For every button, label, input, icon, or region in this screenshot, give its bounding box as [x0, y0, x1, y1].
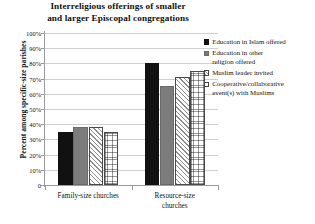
x-label-1-line-0: Resource-size: [124, 192, 227, 202]
bar-group-1-series-2: [175, 77, 190, 185]
y-tick-label-40: 40%: [6, 121, 41, 128]
legend-label-2: Muslim leader invited: [212, 69, 273, 77]
legend-label-3: Cooperative/collaborativeevent(s) with M…: [212, 80, 284, 96]
legend-swatch-icon-1: [204, 51, 209, 56]
legend-label-0: Education in Islam offered: [212, 38, 286, 46]
gridline-80: [45, 63, 218, 64]
legend-item-0[interactable]: Education in Islam offered: [204, 38, 315, 46]
bar-group-1-series-3: [190, 71, 205, 185]
x-tick-mark-origin: [45, 185, 46, 190]
legend-swatch-icon-3: [204, 82, 209, 87]
legend-swatch-icon-0: [204, 39, 209, 44]
bar-group-0-series-0: [58, 132, 73, 185]
chart-figure: Interreligious offerings of smallerand l…: [0, 0, 315, 224]
y-tick-label-20: 20%: [6, 151, 41, 158]
y-tick-label-90: 90%: [6, 45, 41, 52]
legend-item-2[interactable]: Muslim leader invited: [204, 69, 315, 77]
bar-group-1-series-1: [160, 86, 175, 185]
y-tick-label-50: 50%: [6, 106, 41, 113]
y-tick-label-100: 100%: [6, 30, 41, 37]
y-tick-label-10: 10%: [6, 166, 41, 173]
legend-label-0-line-0: Education in Islam offered: [212, 38, 286, 46]
gridline-90: [45, 48, 218, 49]
y-tick-label-80: 80%: [6, 60, 41, 67]
chart-legend: Education in Islam offeredEducation in o…: [204, 38, 315, 100]
plot-area: [45, 33, 218, 185]
legend-label-3-line-0: Cooperative/collaborative: [212, 80, 284, 88]
x-tick-mark-1: [218, 185, 219, 190]
x-axis-label-1: Resource-sizechurches: [124, 192, 227, 211]
legend-label-1: Education in otherreligion offered: [212, 49, 263, 65]
legend-item-1[interactable]: Education in otherreligion offered: [204, 49, 315, 65]
gridline-100: [45, 33, 218, 34]
legend-label-3-line-1: event(s) with Muslims: [212, 89, 284, 97]
y-tick-label-30: 30%: [6, 136, 41, 143]
bar-group-0-series-1: [73, 127, 88, 185]
bar-group-0-series-2: [89, 127, 104, 185]
bar-group-0-series-3: [104, 132, 119, 185]
x-tick-mark-0: [132, 185, 133, 190]
legend-label-1-line-0: Education in other: [212, 49, 263, 57]
x-label-1-line-1: churches: [124, 202, 227, 212]
bar-group-1-series-0: [145, 63, 160, 185]
legend-item-3[interactable]: Cooperative/collaborativeevent(s) with M…: [204, 80, 315, 96]
y-tick-label-70: 70%: [6, 75, 41, 82]
legend-label-1-line-1: religion offered: [212, 58, 263, 66]
legend-label-2-line-0: Muslim leader invited: [212, 69, 273, 77]
y-tick-label-0: 0: [6, 182, 41, 189]
legend-swatch-icon-2: [204, 70, 209, 75]
y-tick-label-60: 60%: [6, 90, 41, 97]
